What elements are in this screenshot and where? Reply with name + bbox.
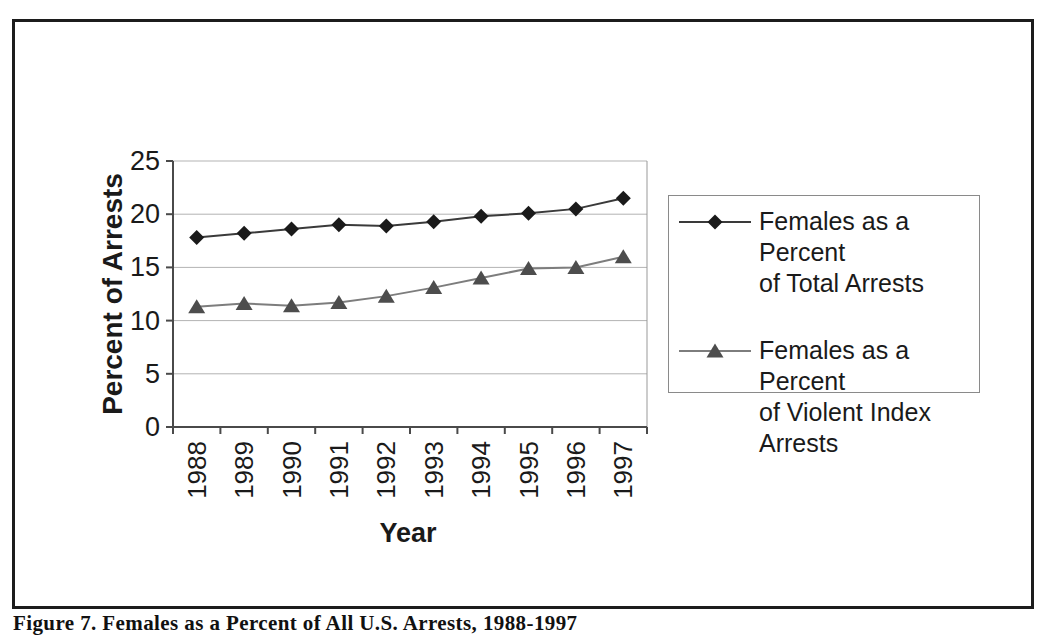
diamond-marker-icon <box>474 209 489 224</box>
axes <box>172 161 647 428</box>
figure-caption: Figure 7. Females as a Percent of All U.… <box>13 611 577 636</box>
tick-marks <box>166 161 647 434</box>
y-tick-label: 0 <box>145 412 160 442</box>
legend-label-violent-index-arrests: Females as a Percent of Violent Index Ar… <box>759 335 973 459</box>
x-tick-label-group: 1988 <box>182 441 212 499</box>
y-tick-labels: 0510152025 <box>130 146 160 442</box>
x-tick-label: 1988 <box>182 441 212 499</box>
diamond-marker-icon <box>521 206 536 221</box>
diamond-marker-icon <box>284 222 299 237</box>
legend-label-total-arrests: Females as a Percent of Total Arrests <box>759 206 973 299</box>
x-tick-label: 1990 <box>277 441 307 499</box>
y-tick-label: 5 <box>145 359 160 389</box>
x-tick-label-group: 1997 <box>608 441 638 499</box>
y-tick-label: 10 <box>130 306 160 336</box>
y-axis-title-group: Percent of Arrests <box>97 173 128 415</box>
triangle-marker-icon <box>615 249 632 263</box>
diamond-marker-icon <box>426 214 441 229</box>
x-tick-label-group: 1991 <box>324 441 354 499</box>
series-diamond <box>189 191 631 245</box>
x-tick-label: 1995 <box>514 441 544 499</box>
x-tick-label: 1989 <box>229 441 259 499</box>
diamond-series-marker-icon <box>679 211 751 233</box>
x-tick-label-group: 1995 <box>514 441 544 499</box>
legend-item-violent-index-arrests: Females as a Percent of Violent Index Ar… <box>679 335 973 459</box>
diamond-marker-icon <box>616 191 631 206</box>
diamond-marker-icon <box>331 217 346 232</box>
x-tick-label: 1996 <box>561 441 591 499</box>
y-axis-title: Percent of Arrests <box>97 173 128 415</box>
x-tick-label-group: 1994 <box>466 441 496 499</box>
x-tick-label: 1991 <box>324 441 354 499</box>
series-line <box>197 198 624 237</box>
x-tick-label: 1997 <box>608 441 638 499</box>
x-tick-label-group: 1992 <box>371 441 401 499</box>
series-line <box>197 257 624 307</box>
x-tick-label: 1994 <box>466 441 496 499</box>
x-tick-labels: 1988198919901991199219931994199519961997 <box>182 441 639 499</box>
diamond-marker-icon <box>189 230 204 245</box>
diamond-marker-icon <box>379 218 394 233</box>
x-tick-label-group: 1996 <box>561 441 591 499</box>
x-tick-label-group: 1989 <box>229 441 259 499</box>
chart-legend: Females as a Percent of Total Arrests Fe… <box>668 195 980 393</box>
y-tick-label: 15 <box>130 252 160 282</box>
x-tick-label-group: 1990 <box>277 441 307 499</box>
x-axis-title: Year <box>379 518 437 548</box>
series-triangle <box>188 249 632 313</box>
diamond-marker-icon <box>237 226 252 241</box>
y-tick-label: 20 <box>130 199 160 229</box>
triangle-series-marker-icon <box>679 340 751 362</box>
x-tick-label: 1992 <box>371 441 401 499</box>
legend-item-total-arrests: Females as a Percent of Total Arrests <box>679 206 973 299</box>
diamond-icon <box>708 215 723 230</box>
x-tick-label: 1993 <box>419 441 449 499</box>
x-tick-label-group: 1993 <box>419 441 449 499</box>
y-tick-label: 25 <box>130 146 160 176</box>
